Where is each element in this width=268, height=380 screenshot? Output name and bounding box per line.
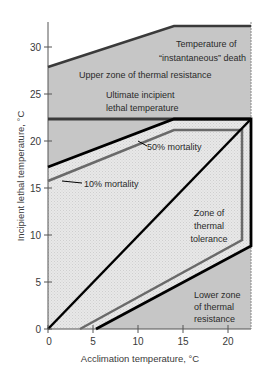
annotation-lower-line2: of thermal: [194, 302, 234, 312]
x-tick-label: 5: [90, 336, 96, 347]
annotation-upper-zone: Upper zone of thermal resistance: [79, 70, 212, 80]
annotation-ultimate-line1: Ultimate incipient: [106, 90, 175, 100]
annotation-lower-line1: Lower zone: [194, 290, 241, 300]
annotation-tolerance-line2: thermal: [194, 221, 224, 231]
y-axis-label: Incipient lethal temperature, °C: [15, 111, 26, 242]
x-axis-label: Acclimation temperature, °C: [81, 353, 200, 364]
annotation-death-line1: Temperature of: [176, 39, 237, 49]
thermal-tolerance-chart: 0 5 10 15 20 25 30 0 5 10 15 20 Acclimat…: [0, 0, 268, 380]
x-tick-label: 10: [132, 336, 144, 347]
annotation-lower-line3: resistance: [194, 314, 235, 324]
x-tick-label: 20: [222, 336, 234, 347]
y-tick-label: 0: [35, 324, 41, 335]
x-tick-label: 0: [46, 336, 52, 347]
annotation-death-line2: “instantaneous” death: [159, 53, 246, 63]
x-tick-label: 15: [177, 336, 189, 347]
y-tick-label: 25: [30, 89, 42, 100]
annotation-ultimate-line2: lethal temperature: [106, 103, 179, 113]
annotation-50-mortality: 50% mortality: [147, 142, 202, 152]
annotation-tolerance-line1: Zone of: [194, 208, 225, 218]
y-tick-label: 30: [30, 42, 42, 53]
y-tick-label: 5: [35, 277, 41, 288]
y-tick-label: 15: [30, 183, 42, 194]
y-tick-label: 20: [30, 136, 42, 147]
annotation-10-mortality: 10% mortality: [84, 179, 139, 189]
y-tick-label: 10: [30, 230, 42, 241]
annotation-tolerance-line3: tolerance: [190, 234, 227, 244]
